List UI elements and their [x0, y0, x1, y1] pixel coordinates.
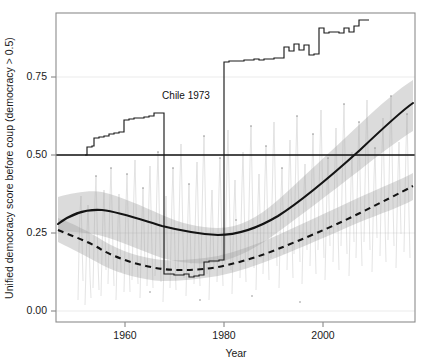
x-tick-label-2: 2000 [311, 329, 335, 341]
chile-1973-annotation: Chile 1973 [162, 90, 210, 101]
y-tick-label-3: 0.75 [27, 70, 48, 82]
y-tick-label-2: 0.50 [27, 148, 48, 160]
chart-figure: 0.00 0.25 0.50 0.75 1960 1980 2000 Year … [0, 0, 431, 362]
y-tick-label-0: 0.00 [27, 304, 48, 316]
chart-canvas: 0.00 0.25 0.50 0.75 1960 1980 2000 Year … [0, 0, 431, 362]
x-tick-label-0: 1960 [113, 329, 137, 341]
y-axis-title: Unified democracy score before coup (dem… [3, 37, 15, 299]
y-tick-label-1: 0.25 [27, 226, 48, 238]
x-tick-label-1: 1980 [212, 329, 236, 341]
x-axis-title: Year [225, 347, 247, 359]
